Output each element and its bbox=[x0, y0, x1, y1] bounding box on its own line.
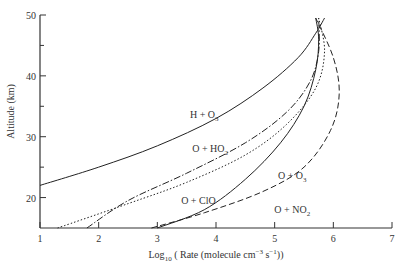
y-axis-label: Altitude (km) bbox=[5, 84, 17, 139]
series-label: O + NO2 bbox=[274, 204, 310, 218]
x-tick-label: 3 bbox=[155, 233, 160, 244]
series-label: H + O3 bbox=[190, 109, 219, 123]
y-tick-label: 30 bbox=[26, 132, 36, 143]
x-tick-label: 6 bbox=[331, 233, 336, 244]
x-tick-label: 4 bbox=[214, 233, 219, 244]
y-tick-label: 20 bbox=[26, 193, 36, 204]
series-label: O + ClO bbox=[181, 195, 216, 206]
series-line bbox=[40, 18, 325, 185]
x-tick-label: 7 bbox=[390, 233, 395, 244]
y-tick-label: 40 bbox=[26, 71, 36, 82]
x-tick-label: 2 bbox=[96, 233, 101, 244]
chart: 123456720304050Altitude (km)Log10 ( Rate… bbox=[0, 0, 408, 264]
series-line bbox=[151, 18, 339, 228]
y-tick-label: 50 bbox=[26, 10, 36, 21]
x-tick-label: 5 bbox=[272, 233, 277, 244]
x-axis-label: Log10 ( Rate (molecule cm−3 s−1)) bbox=[149, 248, 284, 263]
x-tick-label: 1 bbox=[38, 233, 43, 244]
